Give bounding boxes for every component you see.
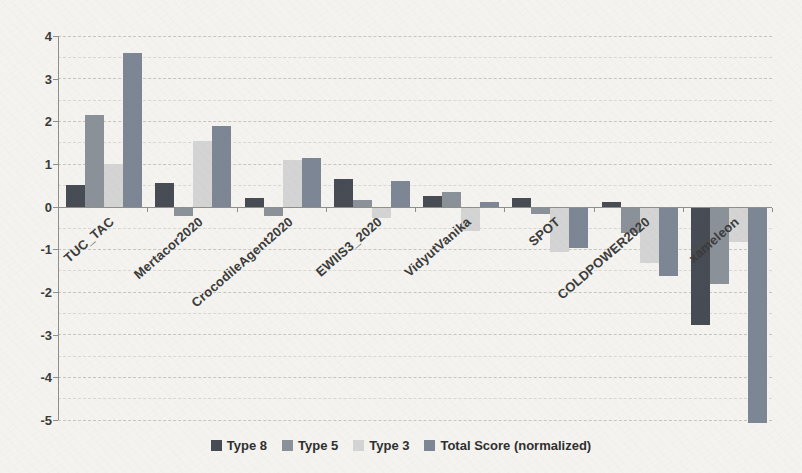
y-axis-tick [53, 292, 58, 293]
x-axis-tick [594, 208, 595, 212]
bar-total-score-normalized-ewiis3_2020 [391, 181, 410, 207]
legend: Type 8Type 5Type 3Total Score (normalize… [0, 438, 802, 453]
gridline [58, 420, 772, 421]
bar-total-score-normalized-tuc_tac [123, 53, 142, 207]
bar-type-8-xameleon [691, 208, 710, 325]
y-axis-tick [53, 79, 58, 80]
bar-type-8-ewiis3_2020 [334, 179, 353, 207]
bar-type-5-crocodileagent2020 [264, 208, 283, 217]
x-axis-tick [58, 208, 59, 212]
y-axis-tick [53, 420, 58, 421]
paper-texture [0, 0, 802, 473]
legend-swatch-icon [282, 440, 293, 451]
gridline [58, 334, 772, 335]
legend-label: Type 3 [369, 438, 409, 453]
y-axis-label: 4 [18, 29, 52, 44]
gridline [58, 313, 772, 314]
y-axis-tick [53, 164, 58, 165]
x-axis-tick [326, 208, 327, 212]
y-axis-label: 2 [18, 114, 52, 129]
y-axis-tick [53, 335, 58, 336]
legend-swatch-icon [424, 440, 435, 451]
bar-type-8-vidyutvanika [423, 196, 442, 207]
bar-chart: 43210-1-2-3-4-5TUC_TACMertacor2020Crocod… [0, 0, 802, 473]
bar-type-5-vidyutvanika [442, 192, 461, 207]
y-axis-tick [53, 377, 58, 378]
x-axis-tick [147, 208, 148, 212]
legend-swatch-icon [211, 440, 222, 451]
bar-type-8-spot [512, 198, 531, 207]
y-axis-tick [53, 36, 58, 37]
gridline [58, 100, 772, 101]
y-axis-label: -1 [18, 242, 52, 257]
gridline [58, 121, 772, 122]
gridline [58, 377, 772, 378]
y-axis-label: -2 [18, 285, 52, 300]
bar-total-score-normalized-xameleon [748, 208, 767, 423]
x-axis-tick [504, 208, 505, 212]
legend-label: Type 5 [298, 438, 338, 453]
x-axis-tick [237, 208, 238, 212]
bar-type-8-crocodileagent2020 [245, 198, 264, 207]
bar-total-score-normalized-spot [569, 208, 588, 249]
y-axis-tick [53, 121, 58, 122]
category-label: TUC_TAC [61, 214, 117, 265]
x-axis-tick [415, 208, 416, 212]
bar-type-5-spot [531, 208, 550, 214]
bar-total-score-normalized-crocodileagent2020 [302, 158, 321, 207]
legend-item-type-8: Type 8 [211, 438, 267, 453]
bar-type-8-coldpower2020 [602, 202, 621, 206]
y-axis [58, 36, 59, 420]
x-axis-tick [683, 208, 684, 212]
bar-total-score-normalized-vidyutvanika [480, 202, 499, 206]
bar-total-score-normalized-mertacor2020 [212, 126, 231, 207]
y-axis-label: 3 [18, 71, 52, 86]
legend-item-type-3: Type 3 [353, 438, 409, 453]
legend-label: Total Score (normalized) [440, 438, 591, 453]
gridline [58, 78, 772, 79]
gridline [58, 356, 772, 357]
bar-type-3-tuc_tac [104, 164, 123, 207]
y-axis-label: -3 [18, 327, 52, 342]
gridline [58, 142, 772, 143]
bar-type-8-tuc_tac [66, 185, 85, 206]
bar-total-score-normalized-coldpower2020 [659, 208, 678, 276]
legend-label: Type 8 [227, 438, 267, 453]
gridline [58, 36, 772, 37]
y-axis-label: -4 [18, 370, 52, 385]
bar-type-5-mertacor2020 [174, 208, 193, 217]
x-axis-tick [772, 208, 773, 212]
bar-type-8-mertacor2020 [155, 183, 174, 206]
gridline [58, 164, 772, 165]
category-label: Mertacor2020 [131, 214, 206, 282]
gridline [58, 57, 772, 58]
y-axis-label: 0 [18, 199, 52, 214]
bar-type-5-ewiis3_2020 [353, 200, 372, 206]
gridline [58, 292, 772, 293]
bar-type-5-tuc_tac [85, 115, 104, 207]
y-axis-tick [53, 249, 58, 250]
bar-type-3-crocodileagent2020 [283, 160, 302, 207]
legend-item-total-score-normalized: Total Score (normalized) [424, 438, 591, 453]
legend-item-type-5: Type 5 [282, 438, 338, 453]
legend-swatch-icon [353, 440, 364, 451]
y-axis-label: -5 [18, 413, 52, 428]
y-axis-label: 1 [18, 157, 52, 172]
gridline [58, 398, 772, 399]
bar-type-3-mertacor2020 [193, 141, 212, 207]
